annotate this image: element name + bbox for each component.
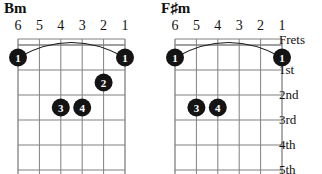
finger-dot-label: 4 xyxy=(215,102,221,114)
finger-dot-1-string-6-fret-1: 1 xyxy=(9,49,27,67)
finger-dot-3-string-5-fret-3: 3 xyxy=(187,99,205,117)
fret-label-4th: 4th xyxy=(279,138,296,152)
fret-label-5th: 5th xyxy=(279,163,296,174)
fret-label-2nd: 2nd xyxy=(279,88,299,102)
finger-dot-4-string-4-fret-3: 4 xyxy=(209,99,227,117)
fret-label-1st: 1st xyxy=(279,63,294,77)
finger-dot-2-string-2-fret-2: 2 xyxy=(95,74,113,92)
fretboard-grid-bm: 11234 xyxy=(0,0,160,174)
finger-dot-label: 3 xyxy=(194,102,200,114)
fret-labels-fsm: Frets1st2nd3rd4th5th xyxy=(279,0,322,174)
finger-dot-label: 4 xyxy=(79,102,85,114)
chord-diagram-fsm: F♯m 654321 1134 Frets1st2nd3rd4th5th xyxy=(157,0,317,174)
fret-label-3rd: 3rd xyxy=(279,113,296,127)
finger-dot-3-string-4-fret-3: 3 xyxy=(52,99,70,117)
finger-dot-label: 2 xyxy=(101,77,107,89)
finger-dot-label: 1 xyxy=(15,52,21,64)
chord-diagram-bm: Bm 654321 11234 xyxy=(0,0,160,174)
finger-dot-label: 1 xyxy=(122,52,128,64)
chord-chart: Bm 654321 11234 F♯m 654321 1134 Frets1st… xyxy=(0,0,322,174)
finger-dot-label: 1 xyxy=(172,52,178,64)
finger-dot-1-string-6-fret-1: 1 xyxy=(166,49,184,67)
fret-label-frets: Frets xyxy=(279,33,305,47)
finger-dot-label: 3 xyxy=(58,102,64,114)
finger-dot-4-string-3-fret-3: 4 xyxy=(73,99,91,117)
finger-dot-1-string-1-fret-1: 1 xyxy=(116,49,134,67)
